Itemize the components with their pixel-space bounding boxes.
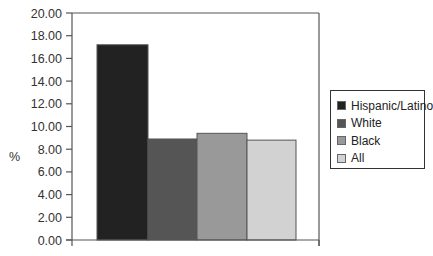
legend: Hispanic/LatinoWhiteBlackAll [330, 90, 425, 169]
legend-swatch [337, 119, 346, 128]
bar-all [247, 140, 296, 240]
legend-item: Black [337, 132, 424, 150]
legend-label: White [351, 116, 382, 130]
bars [97, 45, 296, 240]
y-tick-label: 16.00 [31, 52, 62, 66]
y-tick-label: 14.00 [31, 75, 62, 89]
y-tick-label: 4.00 [38, 188, 62, 202]
y-tick-label: 18.00 [31, 29, 62, 43]
legend-item: All [337, 150, 424, 168]
legend-item: Hispanic/Latino [337, 97, 424, 115]
y-tick-label: 10.00 [31, 120, 62, 134]
legend-swatch [337, 154, 346, 163]
legend-swatch [337, 136, 346, 145]
bar-white [148, 139, 197, 240]
legend-label: All [351, 151, 364, 165]
y-tick-label: 12.00 [31, 97, 62, 111]
legend-label: Black [351, 134, 380, 148]
y-axis-title: % [9, 150, 20, 164]
y-tick-label: 0.00 [38, 234, 62, 248]
legend-label: Hispanic/Latino [351, 99, 433, 113]
y-tick-label: 20.00 [31, 7, 62, 21]
y-tick-label: 8.00 [38, 143, 62, 157]
bar-black [197, 133, 247, 240]
y-tick-label: 6.00 [38, 165, 62, 179]
bar-hispanic-latino [97, 45, 148, 240]
y-tick-label: 2.00 [38, 211, 62, 225]
legend-swatch [337, 101, 346, 110]
legend-item: White [337, 115, 424, 133]
